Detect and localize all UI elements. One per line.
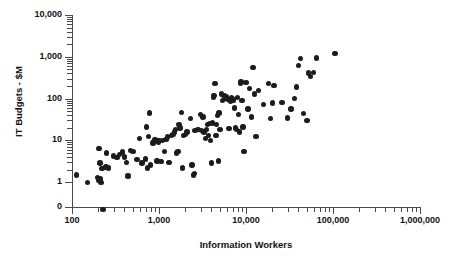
data-point xyxy=(137,136,142,141)
data-point xyxy=(261,102,266,107)
x-tick-minor xyxy=(146,207,147,212)
data-point xyxy=(192,171,197,176)
data-point xyxy=(245,106,250,111)
data-point xyxy=(162,149,167,154)
x-tick-minor xyxy=(151,207,152,212)
x-tick-minor xyxy=(375,207,376,212)
data-point xyxy=(189,162,194,167)
data-point xyxy=(216,110,221,115)
y-tick-major xyxy=(65,99,72,100)
x-tick-minor xyxy=(211,207,212,212)
data-point xyxy=(298,56,303,61)
y-axis-title: IT Budgets - $M xyxy=(13,32,24,172)
data-point xyxy=(125,173,130,178)
data-point xyxy=(144,124,149,129)
x-tick-minor xyxy=(133,207,134,212)
x-tick-minor xyxy=(412,207,413,212)
data-point xyxy=(208,138,213,143)
data-point xyxy=(85,180,90,185)
data-point xyxy=(266,81,271,86)
data-point xyxy=(97,160,102,165)
data-point xyxy=(292,96,297,101)
data-point xyxy=(217,127,222,132)
data-point xyxy=(239,98,244,103)
x-tick-label: 10,000 xyxy=(211,215,281,225)
data-point xyxy=(304,118,309,123)
x-tick-minor xyxy=(314,207,315,212)
data-point xyxy=(249,114,254,119)
x-tick-minor xyxy=(288,207,289,212)
x-tick-minor xyxy=(407,207,408,212)
y-tick-label: 10,000 xyxy=(4,9,62,19)
data-point xyxy=(314,55,319,60)
x-tick-minor xyxy=(272,207,273,212)
data-point xyxy=(311,70,316,75)
x-tick-minor xyxy=(201,207,202,212)
x-tick-major xyxy=(246,207,247,214)
data-point xyxy=(146,134,151,139)
data-point xyxy=(243,80,248,85)
data-point xyxy=(270,100,275,105)
x-tick-minor xyxy=(320,207,321,212)
data-point xyxy=(147,110,152,115)
x-tick-minor xyxy=(140,207,141,212)
data-point xyxy=(253,134,258,139)
data-point xyxy=(175,149,180,154)
x-tick-minor xyxy=(155,207,156,212)
y-tick-zero xyxy=(65,207,72,208)
x-tick-label: 100,000 xyxy=(298,215,368,225)
data-point xyxy=(177,125,182,130)
data-point xyxy=(247,86,252,91)
y-tick-label: 0 xyxy=(4,201,62,211)
data-point xyxy=(232,105,237,110)
x-tick-minor xyxy=(242,207,243,212)
data-point xyxy=(301,111,306,116)
data-points-layer xyxy=(72,15,420,207)
x-tick-minor xyxy=(394,207,395,212)
data-point xyxy=(296,63,301,68)
x-tick-minor xyxy=(227,207,228,212)
x-tick-minor xyxy=(325,207,326,212)
x-tick-minor xyxy=(307,207,308,212)
y-tick-major xyxy=(65,182,72,183)
data-point xyxy=(122,154,127,159)
data-point xyxy=(226,126,231,131)
x-tick-label: 1,000 xyxy=(124,215,194,225)
data-point xyxy=(213,133,218,138)
x-tick-major xyxy=(420,207,421,214)
x-tick-label: 1,000,000 xyxy=(385,215,455,225)
x-tick-minor xyxy=(329,207,330,212)
data-point xyxy=(98,180,103,185)
x-axis-title: Information Workers xyxy=(72,239,420,250)
data-point xyxy=(256,88,261,93)
x-tick-major xyxy=(333,207,334,214)
data-point xyxy=(294,84,299,89)
data-point xyxy=(332,51,337,56)
data-point xyxy=(200,114,205,119)
data-point xyxy=(211,93,216,98)
data-point xyxy=(184,129,189,134)
data-point xyxy=(279,100,284,105)
data-point xyxy=(74,172,79,177)
scatter-chart: 10,0001,0001001010 1001,00010,000100,000… xyxy=(0,0,464,262)
x-tick-minor xyxy=(401,207,402,212)
data-point xyxy=(204,127,209,132)
x-tick-minor xyxy=(298,207,299,212)
data-point xyxy=(288,106,293,111)
data-point xyxy=(143,156,148,161)
y-tick-major xyxy=(65,140,72,141)
data-point xyxy=(104,150,109,155)
x-tick-minor xyxy=(114,207,115,212)
x-tick-minor xyxy=(220,207,221,212)
x-tick-label: 100 xyxy=(37,215,107,225)
data-point xyxy=(130,149,135,154)
data-point xyxy=(209,160,214,165)
data-point xyxy=(285,115,290,120)
y-tick-major xyxy=(65,15,72,16)
x-tick-minor xyxy=(359,207,360,212)
data-point xyxy=(212,81,217,86)
data-point xyxy=(180,165,185,170)
data-point xyxy=(148,162,153,167)
x-tick-minor xyxy=(416,207,417,212)
y-tick-label: 1 xyxy=(4,176,62,186)
